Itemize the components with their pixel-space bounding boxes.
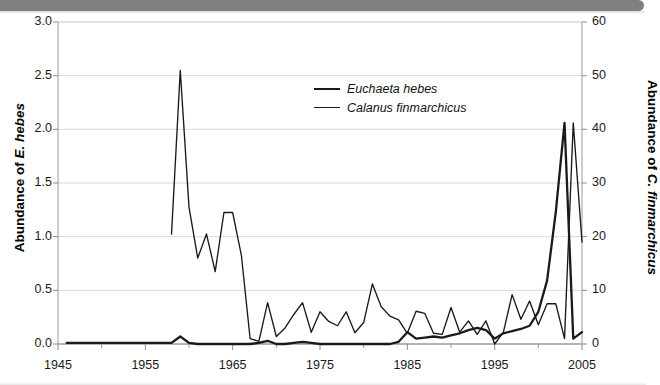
legend-label-euchaeta-hebes: Euchaeta hebes xyxy=(347,82,437,96)
x-axis-tick-2005: 2005 xyxy=(552,358,612,372)
y-axis-right-tick-60: 60 xyxy=(592,14,622,28)
legend-label-calanus-finmarchicus: Calanus finmarchicus xyxy=(347,101,467,115)
y-axis-left-tick-1-5: 1.5 xyxy=(18,175,52,189)
y-axis-left-tick-2-0: 2.0 xyxy=(18,121,52,135)
y-axis-right-tick-10: 10 xyxy=(592,282,622,296)
legend-item-euchaeta-hebes: Euchaeta hebes xyxy=(314,79,467,98)
x-axis-tick-1995: 1995 xyxy=(465,358,525,372)
y-axis-right-tick-40: 40 xyxy=(592,121,622,135)
y-axis-left-tick-0-0: 0.0 xyxy=(18,336,52,350)
y-axis-right-tick-20: 20 xyxy=(592,229,622,243)
y-axis-right-tick-50: 50 xyxy=(592,68,622,82)
y-axis-right-tick-30: 30 xyxy=(592,175,622,189)
y-axis-left-tick-1-0: 1.0 xyxy=(18,229,52,243)
legend: Euchaeta hebes Calanus finmarchicus xyxy=(314,79,467,117)
y-axis-left-tick-2-5: 2.5 xyxy=(18,68,52,82)
y-axis-right-title-species: C. finmarchicus xyxy=(645,174,660,275)
y-axis-left-tick-0-5: 0.5 xyxy=(18,282,52,296)
x-axis-tick-1965: 1965 xyxy=(203,358,263,372)
y-axis-right-title: Abundance of C. finmarchicus xyxy=(645,63,660,293)
x-axis-tick-1975: 1975 xyxy=(290,358,350,372)
series-line-euchaeta-hebes xyxy=(67,123,582,344)
tick-marks xyxy=(53,22,587,350)
y-axis-left-tick-3-0: 3.0 xyxy=(18,14,52,28)
legend-swatch-calanus-finmarchicus xyxy=(314,107,340,108)
legend-item-calanus-finmarchicus: Calanus finmarchicus xyxy=(314,98,467,117)
x-axis-tick-1955: 1955 xyxy=(115,358,175,372)
y-axis-right-tick-0: 0 xyxy=(592,336,622,350)
x-axis-tick-1985: 1985 xyxy=(377,358,437,372)
gridlines xyxy=(58,22,582,344)
legend-swatch-euchaeta-hebes xyxy=(314,88,340,90)
y-axis-right-title-prefix: Abundance of xyxy=(645,80,660,174)
x-axis-tick-1945: 1945 xyxy=(28,358,88,372)
